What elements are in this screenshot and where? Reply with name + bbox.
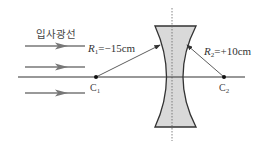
incident-rays xyxy=(25,43,85,97)
lens-diagram xyxy=(0,0,261,147)
c2-point xyxy=(222,75,226,79)
c1-label: C1 xyxy=(90,83,100,95)
r2-label: R2=+10cm xyxy=(204,46,251,59)
c1-point xyxy=(94,75,98,79)
c2-label: C2 xyxy=(219,83,229,95)
incident-light-label: 입사광선 xyxy=(36,29,76,40)
r1-label: R1=−15cm xyxy=(88,43,135,56)
